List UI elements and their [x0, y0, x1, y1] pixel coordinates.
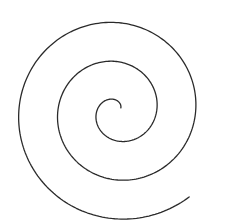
spiral-canvas: [0, 0, 241, 223]
spiral-curve: [19, 22, 196, 219]
spiral-figure: [0, 0, 241, 223]
